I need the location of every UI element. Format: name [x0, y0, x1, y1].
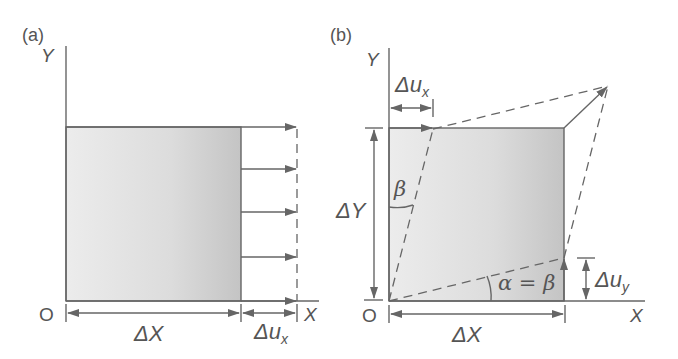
panel-a-x-axis-label: X	[303, 304, 318, 325]
deformed-right-edge	[564, 86, 608, 258]
panel-b-y-axis-label: Y	[366, 49, 380, 70]
panel-a-disp-label: Δux	[253, 319, 289, 347]
figure: (a) Y O X ΔX Δux (b) Y	[0, 0, 678, 359]
diagram-canvas: (a) Y O X ΔX Δux (b) Y	[0, 0, 678, 359]
panel-b-label: (b)	[330, 25, 352, 45]
panel-b-origin-label: O	[362, 305, 377, 326]
panel-b-ux-label: Δux	[394, 72, 430, 100]
panel-b: (b) Y Δux ΔY Δuy β	[330, 25, 645, 347]
panel-b-height-label: ΔY	[335, 198, 367, 223]
panel-a-element-rect	[66, 127, 241, 301]
panel-a-width-label: ΔX	[133, 321, 165, 346]
panel-a-label: (a)	[22, 25, 44, 45]
panel-b-uy-label: Δuy	[594, 267, 630, 295]
panel-b-width-label: ΔX	[451, 322, 483, 347]
panel-b-x-axis-label: X	[629, 305, 644, 326]
alpha-beta-label: α = β	[498, 271, 555, 295]
beta-angle-label: β	[393, 177, 406, 201]
panel-a: (a) Y O X ΔX Δux	[22, 25, 319, 347]
panel-a-origin-label: O	[39, 304, 54, 325]
deformed-top-edge	[433, 86, 608, 129]
panel-a-y-axis-label: Y	[41, 45, 55, 66]
corner-shift-arrow	[564, 87, 607, 128]
